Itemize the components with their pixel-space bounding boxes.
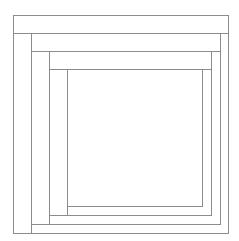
horizontal-line	[49, 215, 212, 216]
vertical-line	[211, 51, 212, 216]
nested-rectangles-diagram	[0, 0, 239, 241]
horizontal-line	[67, 206, 203, 207]
vertical-line	[228, 15, 229, 234]
vertical-line	[67, 69, 68, 216]
vertical-line	[220, 33, 221, 225]
horizontal-line	[31, 224, 221, 225]
horizontal-line	[13, 233, 229, 234]
vertical-line	[13, 15, 14, 234]
vertical-line	[49, 51, 50, 225]
horizontal-line	[13, 33, 229, 34]
horizontal-line	[31, 51, 221, 52]
vertical-line	[202, 69, 203, 207]
horizontal-line	[49, 69, 212, 70]
vertical-line	[31, 33, 32, 234]
horizontal-line	[13, 15, 229, 16]
